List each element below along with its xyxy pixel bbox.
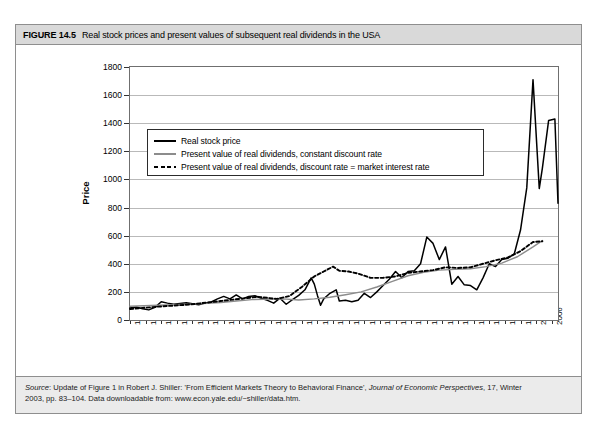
y-tick-label: 1600: [88, 90, 122, 100]
figure-container: FIGURE 14.5 Real stock prices and presen…: [15, 24, 582, 414]
chart-area: Price 020040060080010001200140016001800 …: [16, 45, 581, 378]
legend-item-real-stock-price: Real stock price: [154, 134, 477, 147]
source-text-b: , 17, Winter: [483, 383, 522, 392]
y-tick-label: 400: [88, 259, 122, 269]
figure-source-note: Source: Update of Figure 1 in Robert J. …: [16, 376, 581, 413]
source-text-a: : Update of Figure 1 in Robert J. Shille…: [49, 383, 369, 392]
plot-frame: [129, 66, 559, 321]
y-tick-label: 800: [88, 203, 122, 213]
figure-number: FIGURE 14.5: [23, 30, 76, 40]
legend-swatch-solid-black: [154, 135, 176, 146]
series-path: [130, 241, 542, 309]
y-tick-label: 600: [88, 231, 122, 241]
y-axis-title: Price: [80, 181, 91, 204]
y-tick-label: 0: [88, 315, 122, 325]
source-journal-name: Journal of Economic Perspectives: [369, 383, 483, 392]
figure-header-bar: FIGURE 14.5 Real stock prices and presen…: [16, 25, 581, 45]
figure-caption: Real stock prices and present values of …: [82, 30, 380, 40]
scan-artifact-text: [30, 1, 510, 9]
y-tick-label: 200: [88, 287, 122, 297]
legend-swatch-solid-gray: [154, 148, 176, 159]
legend-label: Real stock price: [181, 136, 241, 146]
chart-legend: Real stock price Present value of real d…: [147, 129, 484, 176]
legend-label: Present value of real dividends, constan…: [181, 149, 382, 159]
source-label: Source: [25, 383, 49, 392]
y-tick-label: 1400: [88, 118, 122, 128]
source-line-2: 2003, pp. 83–104. Data downloadable from…: [25, 393, 572, 404]
legend-item-pv-constant-rate: Present value of real dividends, constan…: [154, 147, 477, 160]
series-path: [130, 80, 558, 310]
y-tick-label: 1000: [88, 174, 122, 184]
y-tick-label: 1200: [88, 146, 122, 156]
series-path: [130, 241, 542, 307]
series-lines: [130, 67, 558, 320]
y-tick-label: 1800: [88, 62, 122, 72]
legend-item-pv-market-rate: Present value of real dividends, discoun…: [154, 160, 477, 173]
legend-swatch-dotted: [154, 161, 176, 172]
figure-page: FIGURE 14.5 Real stock prices and presen…: [0, 0, 597, 437]
figure-body: Price 020040060080010001200140016001800 …: [16, 45, 581, 376]
legend-label: Present value of real dividends, discoun…: [181, 162, 429, 172]
